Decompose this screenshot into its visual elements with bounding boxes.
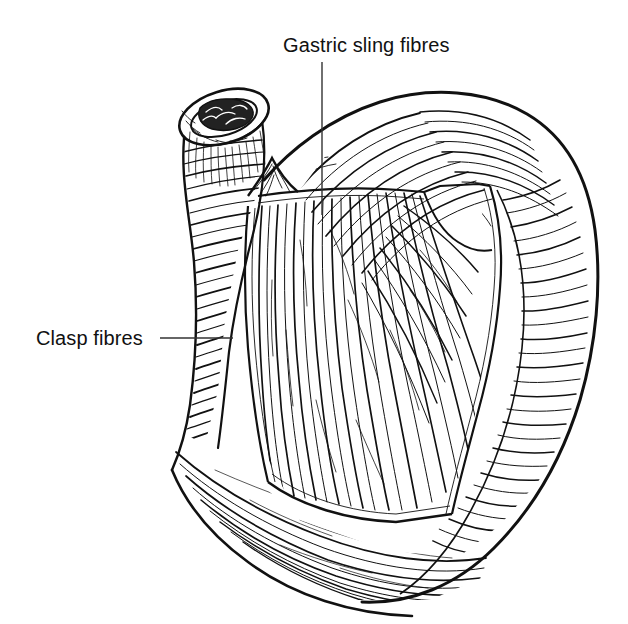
anatomy-figure: Gastric sling fibres Clasp fibres (0, 0, 628, 624)
gastric-sling-fibres-label: Gastric sling fibres (283, 34, 450, 56)
lesser-curve-lower (172, 470, 412, 616)
outer-longitudinal-muscle (176, 452, 486, 614)
muscle-flap (430, 196, 491, 468)
oesophagus-body (172, 120, 264, 470)
oesophagus-lumen (199, 99, 253, 131)
clasp-fibres-label: Clasp fibres (36, 327, 143, 349)
stomach-illustration: Gastric sling fibres Clasp fibres (0, 0, 628, 624)
dissection-window (245, 184, 501, 522)
oesophagus-stump (172, 79, 275, 186)
